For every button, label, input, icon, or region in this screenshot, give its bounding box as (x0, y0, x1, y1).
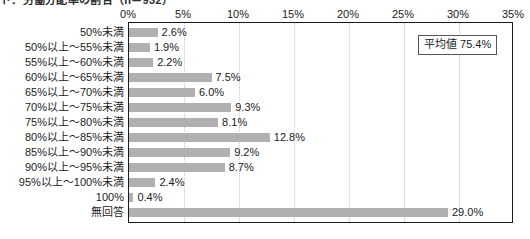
bar-with-value: 8.7% (129, 160, 254, 175)
bar-value-label: 6.0% (199, 85, 224, 100)
x-axis-tick-label: 5% (175, 8, 191, 20)
bar-value-label: 1.9% (154, 40, 179, 55)
bar-value-label: 8.1% (222, 115, 247, 130)
category-label: 100% (0, 190, 124, 205)
bar (129, 28, 158, 37)
x-axis-tick-label: 0% (120, 8, 136, 20)
bar-row: 55%以上～60%未満2.2% (0, 55, 530, 70)
x-axis-tick-label: 20% (337, 8, 359, 20)
category-label: 60%以上～65%未満 (0, 70, 124, 85)
category-label: 55%以上～60%未満 (0, 55, 124, 70)
bar (129, 88, 195, 97)
bar-value-label: 8.7% (229, 160, 254, 175)
bar-with-value: 8.1% (129, 115, 247, 130)
bar-row: 75%以上～80%未満8.1% (0, 115, 530, 130)
bar-with-value: 2.4% (129, 175, 184, 190)
category-label: 無回答 (0, 205, 124, 220)
bar (129, 163, 225, 172)
bar-value-label: 12.8% (274, 130, 305, 145)
bar-row: 70%以上～75%未満9.3% (0, 100, 530, 115)
bar-value-label: 29.0% (452, 205, 483, 220)
bar (129, 178, 155, 187)
category-label: 90%以上～95%未満 (0, 160, 124, 175)
bar-with-value: 29.0% (129, 205, 483, 220)
category-label: 80%以上～85%未満 (0, 130, 124, 145)
bar (129, 133, 270, 142)
bar-with-value: 2.2% (129, 55, 182, 70)
category-label: 95%以上～100%未満 (0, 175, 124, 190)
bar (129, 193, 133, 202)
x-axis-tick-label: 30% (447, 8, 469, 20)
bar-with-value: 0.4% (129, 190, 162, 205)
bar-row: 80%以上～85%未満12.8% (0, 130, 530, 145)
bar-with-value: 9.3% (129, 100, 260, 115)
bar-value-label: 9.2% (234, 145, 259, 160)
category-label: 75%以上～80%未満 (0, 115, 124, 130)
bar (129, 148, 230, 157)
bar-with-value: 1.9% (129, 40, 179, 55)
bar-row: 85%以上～90%未満9.2% (0, 145, 530, 160)
x-axis-tick-label: 25% (392, 8, 414, 20)
average-value-callout: 平均値 75.4% (418, 35, 497, 55)
bar-value-label: 2.2% (157, 55, 182, 70)
category-label: 50%以上～55%未満 (0, 40, 124, 55)
category-label: 65%以上～70%未満 (0, 85, 124, 100)
chart-title: ト：労働分配率の割合（n＝932） (0, 0, 530, 5)
x-axis-tick-label: 35% (502, 8, 524, 20)
x-axis-tick-label: 15% (282, 8, 304, 20)
bar-with-value: 7.5% (129, 70, 241, 85)
bar (129, 118, 218, 127)
bar-value-label: 9.3% (235, 100, 260, 115)
bar-row: 60%以上～65%未満7.5% (0, 70, 530, 85)
bar (129, 58, 153, 67)
bar-chart: ト：労働分配率の割合（n＝932） 0%5%10%15%20%25%30%35%… (0, 0, 530, 239)
bar-with-value: 2.6% (129, 25, 187, 40)
bar (129, 73, 212, 82)
bar-value-label: 2.4% (159, 175, 184, 190)
x-axis-tick-labels: 0%5%10%15%20%25%30%35% (0, 8, 530, 22)
bar-row: 90%以上～95%未満8.7% (0, 160, 530, 175)
bar (129, 103, 231, 112)
bar-with-value: 12.8% (129, 130, 305, 145)
bar-value-label: 0.4% (137, 190, 162, 205)
bar-value-label: 7.5% (216, 70, 241, 85)
bar-value-label: 2.6% (162, 25, 187, 40)
bar (129, 208, 448, 217)
bar (129, 43, 150, 52)
bar-with-value: 6.0% (129, 85, 224, 100)
bar-with-value: 9.2% (129, 145, 259, 160)
category-label: 50%未満 (0, 25, 124, 40)
bar-row: 65%以上～70%未満6.0% (0, 85, 530, 100)
bar-row: 95%以上～100%未満2.4% (0, 175, 530, 190)
category-label: 70%以上～75%未満 (0, 100, 124, 115)
bar-row: 100%0.4% (0, 190, 530, 205)
bar-row: 無回答29.0% (0, 205, 530, 220)
category-label: 85%以上～90%未満 (0, 145, 124, 160)
x-axis-tick-label: 10% (227, 8, 249, 20)
